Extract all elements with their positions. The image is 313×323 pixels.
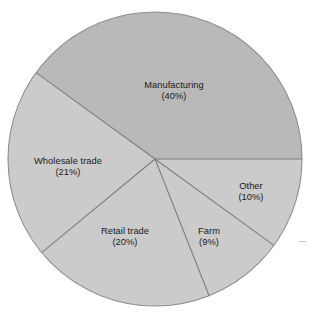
- scan-artifact-speck: [299, 241, 306, 242]
- pie-chart: Manufacturing (40%) Wholesale trade (21%…: [0, 0, 313, 323]
- pie-chart-canvas: [0, 0, 313, 323]
